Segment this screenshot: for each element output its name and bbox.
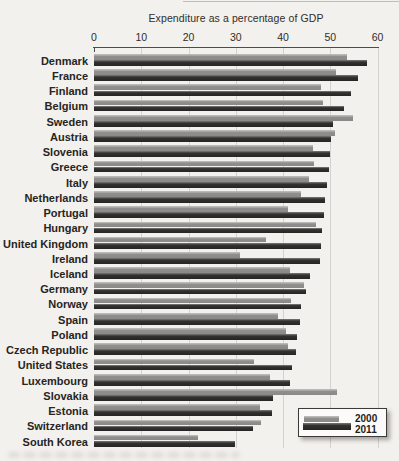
bar-finland-2011: [94, 91, 351, 97]
bar-denmark-2000: [94, 54, 347, 60]
x-tick-label-40: 40: [268, 31, 298, 43]
country-label-germany: Germany: [0, 283, 88, 295]
bar-iceland-2000: [94, 267, 290, 273]
country-label-czech-republic: Czech Republic: [0, 344, 88, 356]
country-label-poland: Poland: [0, 329, 88, 341]
bar-luxembourg-2011: [94, 380, 290, 386]
bar-greece-2000: [94, 161, 314, 167]
country-label-estonia: Estonia: [0, 405, 88, 417]
bar-sweden-2000: [94, 115, 353, 121]
bar-slovenia-2011: [94, 151, 330, 157]
x-tick-label-60: 60: [363, 31, 393, 43]
bar-united-kingdom-2000: [94, 237, 266, 243]
bar-slovakia-2000: [94, 389, 337, 395]
bar-norway-2011: [94, 304, 301, 310]
bar-netherlands-2000: [94, 191, 301, 197]
bar-united-states-2000: [94, 359, 254, 365]
x-tick-label-30: 30: [221, 31, 251, 43]
scanned-chart-figure: Expenditure as a percentage of GDP 01020…: [0, 0, 399, 461]
bar-slovenia-2000: [94, 145, 313, 151]
bar-austria-2000: [94, 130, 335, 136]
bar-portugal-2011: [94, 212, 324, 218]
bar-poland-2011: [94, 334, 297, 340]
legend-swatch-2011: [303, 423, 351, 430]
bar-greece-2011: [94, 167, 329, 173]
bar-sweden-2011: [94, 121, 333, 127]
bar-united-states-2011: [94, 365, 292, 371]
bar-south-korea-2011: [94, 441, 235, 447]
country-label-portugal: Portugal: [0, 207, 88, 219]
bar-finland-2000: [94, 84, 321, 90]
bar-italy-2011: [94, 182, 327, 188]
country-label-south-korea: South Korea: [0, 436, 88, 448]
country-label-belgium: Belgium: [0, 100, 88, 112]
country-label-united-kingdom: United Kingdom: [0, 238, 88, 250]
bar-iceland-2011: [94, 273, 310, 279]
x-tick-label-0: 0: [79, 31, 109, 43]
bar-united-kingdom-2011: [94, 243, 321, 249]
x-tick-label-20: 20: [174, 31, 204, 43]
country-label-spain: Spain: [0, 314, 88, 326]
x-tick-label-10: 10: [126, 31, 156, 43]
legend-label-2000: 2000: [355, 414, 385, 424]
country-label-norway: Norway: [0, 298, 88, 310]
bar-portugal-2000: [94, 206, 288, 212]
country-label-sweden: Sweden: [0, 116, 88, 128]
x-tick-label-50: 50: [315, 31, 345, 43]
bar-france-2000: [94, 69, 336, 75]
legend: 2000 2011: [298, 408, 387, 437]
country-label-ireland: Ireland: [0, 253, 88, 265]
bar-hungary-2011: [94, 228, 322, 234]
legend-label-2011: 2011: [355, 425, 385, 435]
bar-germany-2011: [94, 289, 306, 295]
country-label-slovenia: Slovenia: [0, 146, 88, 158]
country-label-denmark: Denmark: [0, 55, 88, 67]
bar-czech-republic-2000: [94, 343, 288, 349]
scan-artifact-text: [8, 452, 240, 458]
bar-belgium-2000: [94, 100, 323, 106]
country-label-switzerland: Switzerland: [0, 420, 88, 432]
bar-ireland-2000: [94, 252, 240, 258]
bar-netherlands-2011: [94, 197, 325, 203]
bar-poland-2000: [94, 328, 286, 334]
legend-swatch-2000: [304, 416, 339, 422]
country-label-netherlands: Netherlands: [0, 192, 88, 204]
bar-norway-2000: [94, 298, 291, 304]
country-label-finland: Finland: [0, 85, 88, 97]
country-label-iceland: Iceland: [0, 268, 88, 280]
country-label-austria: Austria: [0, 131, 88, 143]
bar-czech-republic-2011: [94, 349, 296, 355]
country-label-luxembourg: Luxembourg: [0, 375, 88, 387]
scan-artifact-line: [183, 1, 399, 2]
chart-title: Expenditure as a percentage of GDP: [94, 12, 378, 24]
bar-italy-2000: [94, 176, 309, 182]
bar-belgium-2011: [94, 106, 344, 112]
bar-south-korea-2000: [94, 435, 198, 441]
country-label-greece: Greece: [0, 161, 88, 173]
bar-switzerland-2000: [94, 420, 261, 426]
bar-france-2011: [94, 75, 358, 81]
bar-estonia-2000: [94, 404, 260, 410]
country-label-france: France: [0, 70, 88, 82]
country-label-italy: Italy: [0, 177, 88, 189]
bar-spain-2011: [94, 319, 300, 325]
x-tick-mark-0: [94, 48, 95, 52]
bar-austria-2011: [94, 136, 331, 142]
bar-denmark-2011: [94, 60, 367, 66]
bar-switzerland-2011: [94, 426, 253, 432]
bar-ireland-2011: [94, 258, 320, 264]
bar-estonia-2011: [94, 410, 272, 416]
gridline-60: [378, 48, 379, 448]
bar-germany-2000: [94, 282, 304, 288]
country-label-united-states: United States: [0, 359, 88, 371]
country-label-hungary: Hungary: [0, 222, 88, 234]
bar-hungary-2000: [94, 222, 316, 228]
bar-spain-2000: [94, 313, 278, 319]
bar-luxembourg-2000: [94, 374, 270, 380]
bar-slovakia-2011: [94, 395, 273, 401]
country-label-slovakia: Slovakia: [0, 390, 88, 402]
